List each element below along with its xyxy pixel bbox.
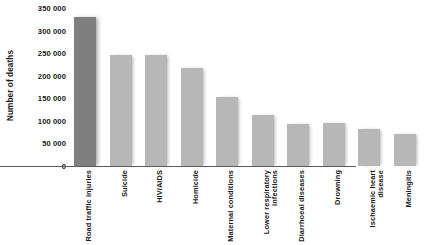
x-axis-tick-label: Lower respiratoryinfections (263, 170, 280, 234)
x-axis-tick-slot: Drowning (321, 168, 347, 244)
x-axis-tick-label: Meningitis (405, 170, 413, 208)
x-axis-tick-slot: Road traffic injuries (72, 168, 98, 244)
x-axis-tick-label-line: Maternal conditions (226, 170, 235, 242)
x-axis-tick-label: Homicide (192, 170, 200, 204)
y-axis-tick-label: 100 000 (38, 116, 66, 125)
x-axis-tick-label: Maternal conditions (227, 170, 235, 242)
bar-slot (356, 129, 382, 166)
y-axis-tick-label: 200 000 (38, 71, 66, 80)
bar (145, 55, 167, 166)
y-axis-title: Number of deaths (0, 0, 22, 170)
bar-slot (321, 123, 347, 166)
x-axis-tick-slot: HIV/AIDS (143, 168, 169, 244)
x-axis-tick-label: Ischaemic heartdisease (369, 170, 386, 227)
bar-slot (108, 55, 134, 167)
x-axis-tick-label: Diarrhoeal diseases (298, 170, 306, 242)
bar-slot (143, 55, 169, 166)
x-axis-tick-slot: Ischaemic heartdisease (356, 168, 382, 244)
x-axis-tick-label-line: disease (378, 170, 386, 227)
x-axis-tick-slot: Diarrhoeal diseases (285, 168, 311, 244)
y-axis-tick-label: 250 000 (38, 49, 66, 58)
x-axis-tick-slot: Suicide (108, 168, 134, 244)
x-axis-tick-label-line: HIV/AIDS (155, 170, 164, 203)
x-axis-tick-label: HIV/AIDS (156, 170, 164, 203)
bar-chart: Number of deaths 050 000100 000150 00020… (0, 0, 441, 245)
bar (252, 115, 274, 166)
y-axis-title-text: Number of deaths (7, 49, 16, 120)
y-axis-tick-labels: 050 000100 000150 000200 000250 000300 0… (22, 0, 70, 175)
bar (216, 97, 238, 166)
bar (287, 124, 309, 166)
x-axis-tick-label-line: infections (271, 170, 279, 234)
bars-layer (70, 8, 422, 166)
x-axis-tick-label: Suicide (121, 170, 129, 197)
bar-slot (250, 115, 276, 166)
y-axis-tick-label: 50 000 (42, 139, 66, 148)
y-axis-tick-label: 350 000 (38, 4, 66, 13)
x-axis-tick-labels: Road traffic injuriesSuicideHIV/AIDSHomi… (70, 168, 422, 244)
x-axis-tick-slot: Lower respiratoryinfections (250, 168, 276, 244)
bar (74, 17, 96, 166)
y-axis-tick-label: 300 000 (38, 26, 66, 35)
x-axis-tick-label-line: Lower respiratory (262, 170, 271, 234)
bar (110, 55, 132, 167)
bar-slot (392, 134, 418, 166)
x-axis-tick-label-line: Diarrhoeal diseases (297, 170, 306, 242)
x-axis-tick-label-line: Meningitis (404, 170, 413, 208)
x-axis-line (0, 166, 356, 167)
x-axis-tick-label: Road traffic injuries (85, 170, 93, 242)
bar (394, 134, 416, 166)
x-axis-tick-slot: Maternal conditions (214, 168, 240, 244)
bar (358, 129, 380, 166)
x-axis-tick-label-line: Homicide (191, 170, 200, 204)
x-axis-tick-slot: Meningitis (392, 168, 418, 244)
y-axis-tick-label: 150 000 (38, 94, 66, 103)
x-axis-tick-label-line: Suicide (120, 170, 129, 197)
bar-slot (72, 17, 98, 166)
bar-slot (214, 97, 240, 166)
plot-area (70, 8, 422, 166)
bar (323, 123, 345, 166)
x-axis-tick-label: Drowning (334, 170, 342, 205)
x-axis-tick-slot: Homicide (179, 168, 205, 244)
bar (181, 68, 203, 166)
bar-slot (179, 68, 205, 166)
bar-slot (285, 124, 311, 166)
x-axis-tick-label-line: Road traffic injuries (84, 170, 93, 242)
x-axis-tick-label-line: Drowning (333, 170, 342, 205)
